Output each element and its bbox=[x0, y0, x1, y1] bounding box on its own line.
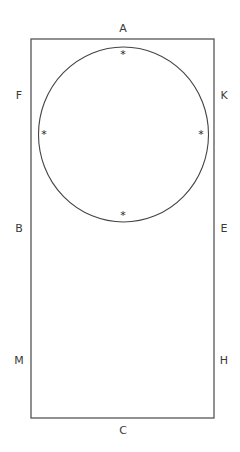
outer-rectangle bbox=[31, 39, 214, 418]
label-h: H bbox=[214, 353, 234, 369]
label-k: K bbox=[214, 88, 234, 104]
marker-top: * bbox=[120, 48, 126, 61]
marker-bottom: * bbox=[120, 209, 126, 222]
inscribed-circle bbox=[39, 47, 209, 222]
label-e: E bbox=[214, 221, 234, 237]
marker-left: * bbox=[41, 128, 47, 141]
label-f: F bbox=[9, 88, 29, 104]
label-m: M bbox=[9, 353, 29, 369]
label-c: C bbox=[113, 423, 133, 439]
circle-markers: * * * * bbox=[41, 48, 204, 222]
label-a: A bbox=[113, 21, 133, 37]
diagram-canvas: * * * * bbox=[0, 0, 240, 452]
marker-right: * bbox=[198, 128, 204, 141]
label-b: B bbox=[9, 221, 29, 237]
